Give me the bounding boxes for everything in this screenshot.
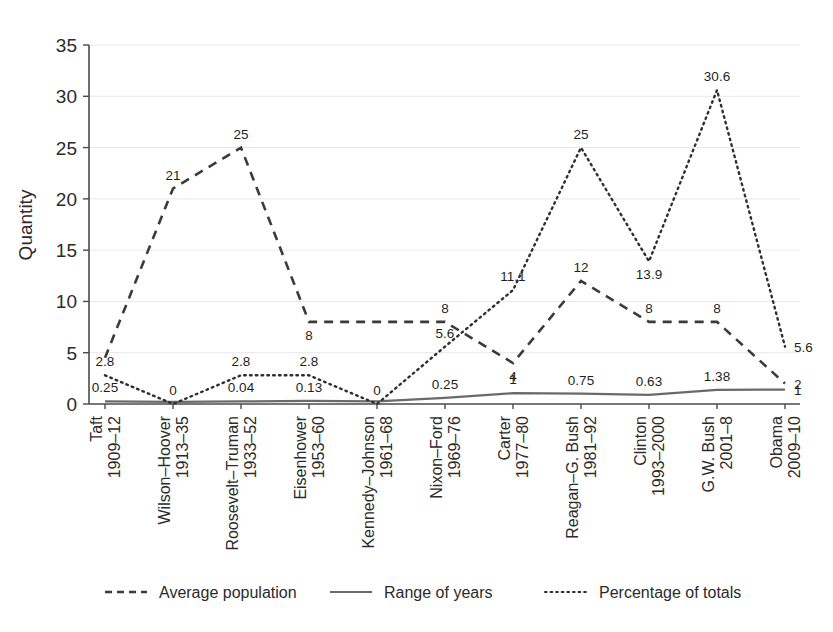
legend-item-average-population[interactable]: Average population: [105, 584, 297, 601]
data-point-label: 1.38: [704, 369, 730, 384]
x-tick-label-line: Wilson–Hoover: [156, 415, 173, 524]
data-point-label: 21: [165, 168, 180, 183]
x-tick-label-line: 2009–10: [786, 416, 803, 478]
chart-legend: Average populationRange of yearsPercenta…: [105, 584, 741, 601]
x-tick-label-line: 1961–68: [378, 416, 395, 478]
legend-item-label: Range of years: [384, 584, 493, 601]
data-point-label: 0.25: [432, 377, 458, 392]
series-layer: [105, 90, 785, 404]
x-tick-label-line: Eisenhower: [292, 415, 309, 499]
data-point-label: 0.04: [228, 380, 255, 395]
x-tick-label-line: Kennedy–Johnson: [360, 416, 377, 549]
legend-item-label: Percentage of totals: [599, 584, 741, 601]
data-point-label: 8: [713, 301, 721, 316]
x-tick-label-group: Wilson–Hoover1913–35: [156, 415, 191, 524]
y-tick-label: 10: [56, 291, 77, 312]
data-point-label: 1: [509, 372, 517, 387]
legend-item-label: Average population: [159, 584, 297, 601]
x-tick-label-line: Roosevelt–Truman: [224, 416, 241, 551]
x-tick-label-line: 1969–76: [446, 416, 463, 478]
x-tick-label-group: Roosevelt–Truman1933–52: [224, 416, 259, 551]
data-point-label: 5.6: [794, 340, 813, 355]
y-tick-label: 30: [56, 86, 77, 107]
x-tick-label-line: 1953–60: [310, 416, 327, 478]
x-tick-label-group: Carter1977–80: [496, 415, 531, 478]
x-tick-label-line: Carter: [496, 415, 513, 460]
data-point-label: 0.75: [568, 373, 594, 388]
x-tick-label-line: Nixon–Ford: [428, 416, 445, 499]
x-tick-label-line: G.W. Bush: [700, 416, 717, 492]
data-point-label: 0.13: [296, 380, 322, 395]
x-tick-label-line: 1981–92: [582, 416, 599, 478]
x-tick-label-line: 1913–35: [174, 416, 191, 478]
data-point-label: 2.8: [232, 354, 251, 369]
data-point-label: 12: [573, 260, 588, 275]
data-point-label: 11.1: [500, 269, 525, 284]
x-tick-label-group: Nixon–Ford1969–76: [428, 416, 463, 499]
y-tick-label: 25: [56, 138, 77, 159]
line-chart-svg: 05101520253035 Quantity 2125884128820.25…: [0, 0, 833, 632]
x-tick-label-line: Reagan–G. Bush: [564, 416, 581, 539]
data-point-label: 30.6: [704, 69, 730, 84]
x-tick-label-group: Eisenhower1953–60: [292, 415, 327, 499]
data-point-label: 0.63: [636, 374, 662, 389]
data-point-label: 25: [573, 127, 588, 142]
data-point-label: 0: [373, 383, 381, 398]
y-tick-label: 5: [66, 343, 77, 364]
x-tick-label-line: 1909–12: [106, 416, 123, 478]
data-point-label: 13.9: [636, 267, 662, 282]
x-tick-label-line: Obama: [768, 416, 785, 469]
data-point-label: 8: [441, 301, 449, 316]
y-tick-label: 20: [56, 189, 77, 210]
y-tick-label: 15: [56, 240, 77, 261]
x-tick-label-group: Clinton1993–2000: [632, 416, 667, 496]
data-point-label: 8: [645, 301, 653, 316]
y-axis-ticks: 05101520253035: [56, 35, 89, 415]
data-point-label: 2.8: [300, 354, 319, 369]
y-tick-label: 35: [56, 35, 77, 56]
chart-figure: 05101520253035 Quantity 2125884128820.25…: [0, 0, 833, 632]
y-axis-title: Quantity: [15, 189, 36, 260]
legend-item-percentage-of-totals[interactable]: Percentage of totals: [545, 584, 741, 601]
data-point-label: 2.8: [96, 354, 115, 369]
data-point-label: 5.6: [436, 326, 455, 341]
x-tick-label-group: Obama2009–10: [768, 416, 803, 478]
x-tick-label-line: 2001–8: [718, 416, 735, 469]
data-point-label: 25: [233, 127, 248, 142]
x-tick-label-group: Taft1909–12: [88, 415, 123, 478]
data-point-label: 0.25: [92, 380, 118, 395]
legend-item-range-of-years[interactable]: Range of years: [330, 584, 493, 601]
x-tick-label-group: Reagan–G. Bush1981–92: [564, 416, 599, 539]
x-tick-label-line: Taft: [88, 415, 105, 441]
data-point-label: 8: [305, 328, 313, 343]
x-tick-label-group: G.W. Bush2001–8: [700, 416, 735, 493]
x-axis-tick-labels: Taft1909–12Wilson–Hoover1913–35Roosevelt…: [88, 404, 803, 551]
x-tick-label-line: 1977–80: [514, 416, 531, 478]
y-tick-label: 0: [66, 394, 77, 415]
series-line-percentage-of-totals: [105, 90, 785, 404]
x-tick-label-line: 1933–52: [242, 416, 259, 478]
x-tick-label-line: 1993–2000: [650, 416, 667, 496]
x-tick-label-line: Clinton: [632, 416, 649, 466]
data-point-label: 1: [794, 383, 802, 398]
x-tick-label-group: Kennedy–Johnson1961–68: [360, 416, 395, 549]
data-point-label: 0: [169, 383, 177, 398]
